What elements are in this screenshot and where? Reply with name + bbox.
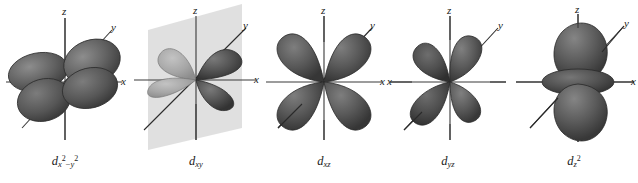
orbital-diagram-dxy: z y x dxy [130, 0, 262, 183]
axis-label-y: y [111, 22, 116, 33]
orbital-label-dyz: dyz [386, 155, 510, 169]
axis-label-x: x [254, 74, 259, 85]
lobe-lower-right [324, 82, 371, 130]
orbital-diagram-dyz: z y x dyz [386, 0, 510, 183]
orbital-label-sub: xz [324, 160, 331, 170]
orbital-label-dxz: dxz [262, 155, 386, 169]
orbital-diagram-dx2-y2: z y x dx2−y2 [0, 0, 130, 183]
orbital-stage-dz2 [510, 0, 638, 150]
axis-label-y: y [370, 20, 375, 31]
axis-label-x: x [121, 76, 126, 87]
lobe-lower-right [450, 82, 481, 122]
orbital-label-dx2-y2: dx2−y2 [0, 155, 130, 169]
orbital-label-sup2: 2 [74, 154, 78, 163]
lobe-upper-right [450, 36, 482, 82]
d-orbital-figure: z y x dx2−y2 [0, 0, 638, 183]
axis-label-x: x [380, 76, 385, 87]
axis-label-z: z [321, 5, 325, 16]
axis-label-y: y [498, 20, 503, 31]
axis-label-z: z [575, 4, 579, 15]
lobe-lower-z [554, 84, 607, 141]
lobe-upper-left [277, 34, 324, 82]
lobe-lower-left [410, 82, 450, 125]
orbital-label-sub: xy [195, 160, 203, 170]
orbital-label-dxy: dxy [130, 155, 262, 169]
lobe-upper-right [324, 34, 371, 82]
axis-label-y: y [243, 20, 248, 31]
axis-label-z: z [62, 6, 66, 17]
orbital-stage-dyz [386, 0, 510, 150]
orbital-label-sup: 2 [577, 154, 581, 163]
orbital-label-sub: yz [448, 160, 455, 170]
orbital-stage-dxz [262, 0, 386, 150]
axis-label-x: x [631, 76, 636, 87]
orbital-label-dz2: dz2 [510, 155, 638, 169]
axis-label-x: x [387, 76, 392, 87]
axis-label-z: z [447, 5, 451, 16]
axis-label-y: y [624, 18, 629, 29]
orbital-diagram-dxz: z y x dxz [262, 0, 386, 183]
orbital-diagram-dz2: z y x dz2 [510, 0, 638, 183]
lobe-back-upper-left [413, 43, 450, 82]
axis-label-z: z [193, 5, 197, 16]
